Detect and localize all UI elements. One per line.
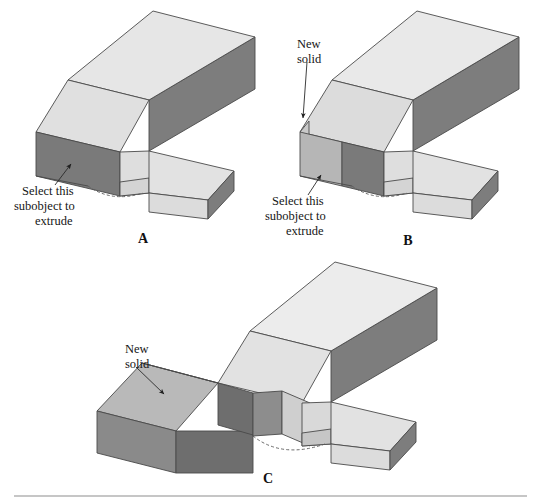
panel-b-new-solid-line-2: solid <box>297 52 322 66</box>
panel-c-new-solid-line-2: solid <box>125 357 150 371</box>
panel-a-callout-line-1: Select this <box>22 184 74 198</box>
panel-b-label: B <box>403 233 412 248</box>
panel-c-label: C <box>263 471 273 486</box>
panel-c-new-solid-line-1: New <box>125 342 149 356</box>
panel-c-new-solid-front-face <box>176 431 253 473</box>
panel-a-label: A <box>138 231 149 246</box>
figure-root: Select this subobject to extrude A <box>0 0 541 500</box>
panel-b-select-line-1: Select this <box>272 194 324 208</box>
panel-c-junction-dark-face <box>253 391 282 436</box>
isometric-extrude-figure: Select this subobject to extrude A <box>0 0 541 500</box>
panel-b-select-line-3: extrude <box>286 224 324 238</box>
panel-b-selected-subobject-face <box>342 142 384 196</box>
panel-a-callout-line-2: subobject to <box>14 199 75 213</box>
panel-b-new-solid-front-face <box>300 132 342 186</box>
panel-b-new-solid-line-1: New <box>297 37 321 51</box>
panel-a-callout-line-3: extrude <box>35 214 73 228</box>
panel-b-select-line-2: subobject to <box>265 209 326 223</box>
